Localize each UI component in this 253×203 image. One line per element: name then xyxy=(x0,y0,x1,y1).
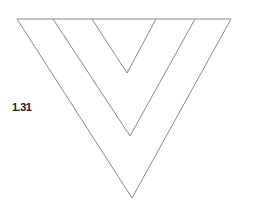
nested-triangles-diagram xyxy=(0,0,253,203)
figure-number-label: 1.31 xyxy=(12,101,31,113)
middle-chevron xyxy=(53,19,195,136)
inner-chevron xyxy=(92,19,156,73)
outer-chevron xyxy=(17,19,231,198)
